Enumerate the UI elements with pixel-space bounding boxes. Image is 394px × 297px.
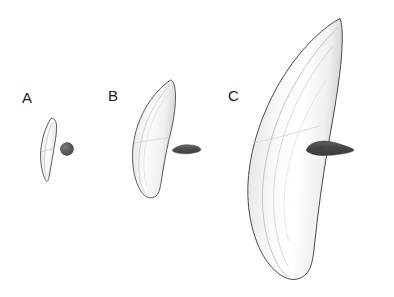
panel-label-a: A (22, 90, 32, 105)
panel-a-specimen (41, 118, 75, 181)
specimen-plate: A B C (0, 0, 394, 297)
claw-specimen-b (133, 80, 176, 198)
panel-label-b: B (108, 88, 118, 103)
cross-section-a (59, 141, 75, 156)
cross-section-b (172, 145, 201, 154)
panel-label-c: C (228, 88, 239, 103)
panel-c-specimen (248, 19, 354, 280)
specimen-illustration-layer (0, 0, 394, 297)
panel-b-specimen (133, 80, 201, 198)
cross-section-c (306, 141, 353, 155)
